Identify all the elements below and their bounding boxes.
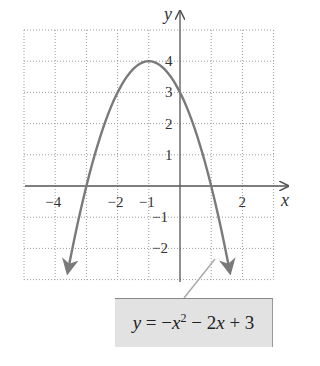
y-tick-label: 2 xyxy=(165,116,173,132)
equation-label-box: y = −x2 − 2x + 3 xyxy=(115,298,273,347)
y-axis-label: y xyxy=(162,4,172,24)
x-tick-label: −1 xyxy=(139,194,155,210)
x-tick-label: 2 xyxy=(238,194,246,210)
y-tick-label: −1 xyxy=(152,209,168,225)
y-tick-label: 1 xyxy=(165,147,173,163)
x-tick-label: −4 xyxy=(45,194,61,210)
y-tick-label: −2 xyxy=(152,240,168,256)
x-tick-label: −2 xyxy=(108,194,124,210)
equation-text: y = −x2 − 2x + 3 xyxy=(133,311,255,334)
y-tick-label: 3 xyxy=(165,84,173,100)
callout-pointer xyxy=(184,259,215,298)
x-axis-label: x xyxy=(280,190,289,210)
y-tick-label: 4 xyxy=(165,53,173,69)
grid-lines xyxy=(24,30,274,280)
